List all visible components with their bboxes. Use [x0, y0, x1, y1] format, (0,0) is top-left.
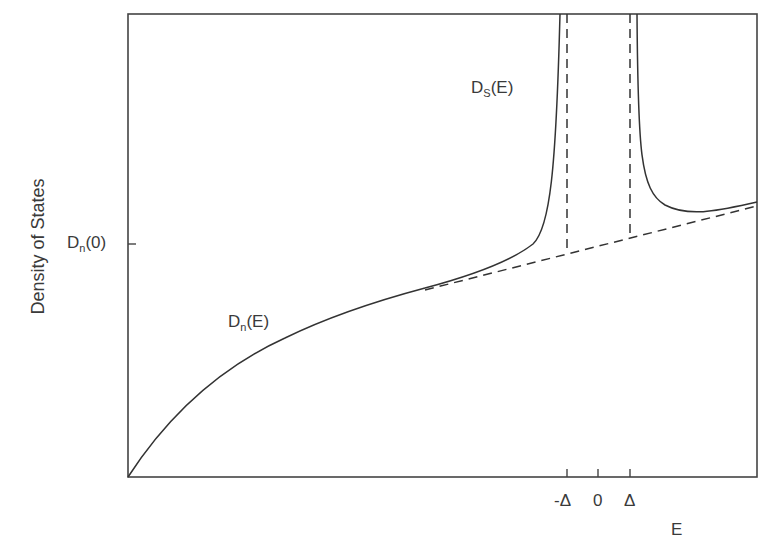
ds-curve-left — [425, 14, 560, 288]
dn-curve — [128, 288, 425, 477]
x-axis-label: E — [671, 520, 682, 540]
ds-main: D — [471, 78, 483, 97]
ytick-main: D — [67, 233, 79, 252]
x-tick-label-delta: Δ — [624, 491, 635, 511]
ds-curve-right — [637, 14, 757, 212]
x-tick-label-minus-delta: -Δ — [554, 491, 571, 511]
ds-sub: S — [483, 87, 490, 99]
ds-tail: (E) — [491, 78, 514, 97]
dn-main: D — [228, 312, 240, 331]
y-tick-label-dn0: Dn(0) — [67, 233, 106, 254]
ds-curve-label: DS(E) — [471, 78, 513, 99]
ytick-tail: (0) — [85, 233, 106, 252]
y-axis-label: Density of States — [28, 157, 49, 337]
dn-tail: (E) — [246, 312, 269, 331]
dn-extrapolation-dashed — [425, 206, 757, 290]
x-tick-label-zero: 0 — [593, 491, 602, 511]
dos-plot — [0, 0, 769, 552]
dn-curve-label: Dn(E) — [228, 312, 269, 333]
plot-frame — [128, 14, 757, 477]
